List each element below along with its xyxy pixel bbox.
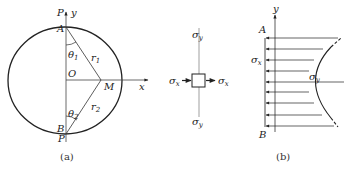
label-x-axis: x	[139, 81, 145, 92]
figure-b: y A σx σy B (b)	[251, 3, 344, 162]
diagram-canvas: P y A θ1 r1 O M x θ2 r2 B P (a) σy σx σx…	[0, 0, 347, 174]
label-p-bottom: P	[57, 133, 65, 144]
label-sigma-x-left-sub: x	[176, 80, 180, 88]
svg-text:(b): (b)	[276, 151, 290, 162]
svg-text:P: P	[57, 133, 65, 144]
label-b-b: B	[258, 129, 266, 140]
svg-text:(a): (a)	[60, 151, 74, 162]
svg-text:r2: r2	[91, 101, 101, 114]
label-r2-sub: 2	[95, 106, 101, 114]
svg-text:A: A	[56, 23, 64, 34]
caption-a: (a)	[60, 151, 74, 162]
svg-text:σx: σx	[169, 75, 180, 88]
label-r1-sub: 1	[96, 57, 100, 65]
svg-text:B: B	[258, 129, 266, 140]
svg-text:θ2: θ2	[68, 108, 79, 121]
label-y-axis-b: y	[272, 3, 279, 14]
label-m: M	[103, 81, 115, 92]
caption-b: (b)	[276, 151, 290, 162]
stress-element: σy σx σx σy	[169, 28, 229, 129]
sigma-y-curve-dashed-top	[331, 38, 341, 47]
svg-text:y: y	[272, 3, 279, 14]
svg-text:σx: σx	[218, 75, 229, 88]
svg-text:σy: σy	[192, 29, 204, 42]
svg-text:A: A	[258, 24, 266, 35]
label-theta2-sub: 2	[73, 113, 79, 121]
label-y-axis: y	[70, 7, 77, 18]
label-a: A	[56, 23, 64, 34]
svg-text:σy: σy	[192, 116, 204, 129]
svg-text:P: P	[56, 7, 64, 18]
sigma-x-arrows	[266, 38, 344, 126]
svg-text:M: M	[103, 81, 115, 92]
label-sigma-y-bottom-sub: y	[198, 121, 204, 129]
svg-text:O: O	[68, 68, 76, 79]
svg-text:y: y	[70, 7, 77, 18]
label-a-b: A	[258, 24, 266, 35]
svg-text:r1: r1	[91, 52, 100, 65]
label-sigma-y-b-sub: y	[315, 76, 321, 84]
svg-text:θ1: θ1	[68, 49, 79, 62]
svg-text:x: x	[139, 81, 145, 92]
theta1-arc	[66, 42, 76, 45]
label-o: O	[68, 68, 76, 79]
label-theta1-sub: 1	[74, 54, 78, 62]
svg-text:σx: σx	[251, 54, 262, 67]
element-square	[192, 74, 205, 87]
label-sigma-y-top-sub: y	[198, 34, 204, 42]
figure-a: P y A θ1 r1 O M x θ2 r2 B P (a)	[8, 7, 148, 162]
label-sigma-x-right-sub: x	[225, 80, 229, 88]
label-sigma-x-b-sub: x	[258, 59, 262, 67]
label-p-top: P	[56, 7, 64, 18]
